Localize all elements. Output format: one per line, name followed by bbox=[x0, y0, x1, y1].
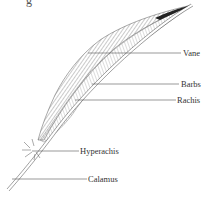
label-hyperachis: Hyperachis bbox=[80, 146, 119, 156]
label-rachis: Rachis bbox=[177, 95, 200, 105]
rachis-shaft bbox=[8, 5, 192, 190]
label-barbs: Barbs bbox=[181, 79, 201, 89]
label-vane: Vane bbox=[183, 48, 200, 58]
label-calamus: Calamus bbox=[88, 174, 118, 184]
